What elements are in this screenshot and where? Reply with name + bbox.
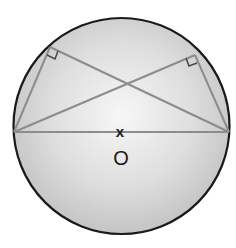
circle-diagram: x O	[0, 0, 236, 248]
center-mark: x	[116, 123, 125, 140]
center-label: O	[113, 147, 129, 169]
